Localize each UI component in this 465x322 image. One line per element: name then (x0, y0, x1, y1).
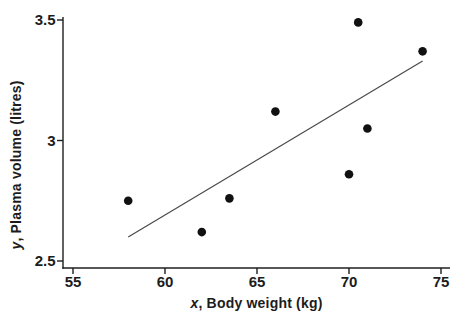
scatter-point (345, 170, 354, 179)
x-axis-title-text: , Body weight (kg) (198, 295, 322, 311)
regression-line (128, 61, 422, 237)
x-tick-label: 75 (433, 273, 450, 290)
x-tick-label: 60 (157, 273, 174, 290)
scatter-point (354, 18, 363, 27)
scatter-plot-figure: 2.533.55560657075 x, Body weight (kg) y,… (0, 0, 465, 322)
scatter-point (198, 228, 207, 237)
x-tick-label: 70 (341, 273, 358, 290)
scatter-point (124, 196, 133, 205)
x-tick-label: 65 (249, 273, 266, 290)
plot-canvas: 2.533.55560657075 (0, 0, 465, 322)
scatter-point (363, 124, 372, 133)
y-tick-label: 3 (47, 132, 55, 149)
scatter-point (225, 194, 234, 203)
scatter-point (271, 107, 280, 116)
y-axis-title: y, Plasma volume (litres) (8, 80, 24, 249)
y-axis-title-variable: y (8, 242, 24, 250)
x-axis-title: x, Body weight (kg) (63, 295, 450, 311)
y-tick-label: 3.5 (35, 11, 56, 28)
x-tick-label: 55 (65, 273, 82, 290)
y-tick-label: 2.5 (35, 252, 56, 269)
scatter-point (418, 47, 427, 56)
y-axis-title-text: , Plasma volume (litres) (8, 80, 24, 241)
